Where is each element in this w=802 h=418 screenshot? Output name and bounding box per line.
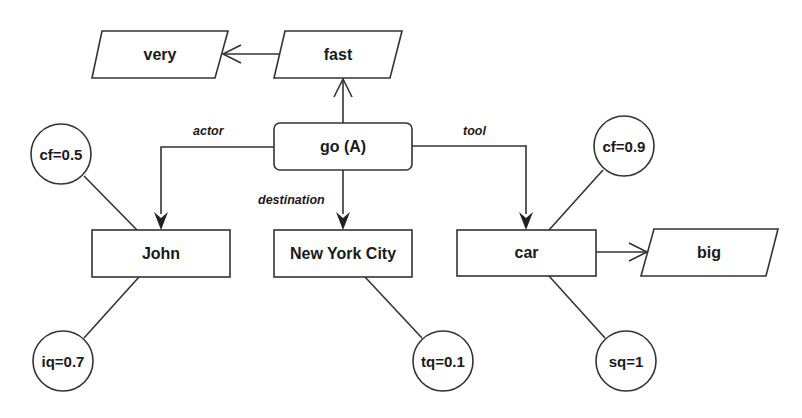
node-very: very bbox=[95, 31, 225, 78]
node-fast: fast bbox=[277, 31, 399, 78]
destination-arrowhead-icon bbox=[336, 212, 350, 230]
actor-arrowhead-icon bbox=[154, 212, 168, 230]
node-car: car bbox=[457, 230, 596, 276]
node-big: big bbox=[645, 229, 773, 276]
edge-label-destination: destination bbox=[258, 193, 325, 207]
node-go: go (A) bbox=[274, 123, 412, 170]
edge-label-actor: actor bbox=[193, 124, 224, 138]
circle-iq-john: iq=0.7 bbox=[33, 331, 93, 391]
node-nyc: New York City bbox=[274, 230, 412, 277]
circle-sq-car: sq=1 bbox=[596, 331, 656, 391]
node-john: John bbox=[92, 230, 230, 277]
circle-cf-john: cf=0.5 bbox=[31, 124, 91, 184]
edge-label-tool: tool bbox=[463, 124, 486, 138]
circle-cf-car: cf=0.9 bbox=[594, 116, 654, 176]
tool-arrowhead-icon bbox=[519, 212, 533, 230]
circle-tq-nyc: tq=0.1 bbox=[413, 331, 473, 391]
